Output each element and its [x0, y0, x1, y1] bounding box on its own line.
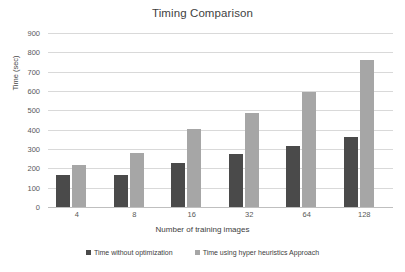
- bar: [360, 60, 374, 207]
- bar: [114, 175, 128, 207]
- chart-legend: Time without optimizationTime using hype…: [0, 249, 405, 256]
- y-axis-tick-label: 900: [27, 29, 40, 38]
- bar-group: [106, 33, 164, 207]
- x-axis-tick-label: 8: [132, 210, 136, 219]
- x-axis-tick-label: 64: [303, 210, 311, 219]
- x-axis-tick-labels: 48163264128: [48, 210, 393, 224]
- bar-group: [48, 33, 106, 207]
- bar-group: [163, 33, 221, 207]
- y-axis-tick-label: 200: [27, 164, 40, 173]
- bar: [72, 165, 86, 207]
- y-axis-tick-label: 500: [27, 106, 40, 115]
- plot-area: [48, 33, 393, 207]
- y-axis-tick-label: 300: [27, 145, 40, 154]
- legend-entry[interactable]: Time using hyper heuristics Approach: [195, 249, 319, 256]
- x-axis-tick-label: 32: [245, 210, 253, 219]
- bar: [229, 154, 243, 207]
- x-axis-tick-label: 128: [358, 210, 371, 219]
- chart-title: Timing Comparison: [0, 7, 405, 19]
- bar-group: [278, 33, 336, 207]
- y-axis-tick-label: 700: [27, 67, 40, 76]
- bar: [302, 92, 316, 207]
- legend-entry[interactable]: Time without optimization: [86, 249, 173, 256]
- x-axis-tick-label: 4: [75, 210, 79, 219]
- bar: [245, 113, 259, 207]
- gridline: [48, 207, 393, 208]
- y-axis-tick-label: 400: [27, 125, 40, 134]
- bars-layer: [48, 33, 393, 207]
- y-axis-tick-labels: 0100200300400500600700800900: [0, 33, 44, 207]
- bar: [187, 129, 201, 207]
- y-axis-tick-label: 600: [27, 87, 40, 96]
- bar: [286, 146, 300, 207]
- legend-label: Time using hyper heuristics Approach: [203, 249, 319, 256]
- bar-group: [221, 33, 279, 207]
- bar: [56, 175, 70, 207]
- y-axis-tick-label: 0: [36, 203, 40, 212]
- bar: [171, 163, 185, 207]
- legend-swatch-icon: [195, 250, 200, 255]
- bar-group: [336, 33, 394, 207]
- y-axis-tick-label: 800: [27, 48, 40, 57]
- bar: [130, 153, 144, 207]
- x-axis-tick-label: 16: [188, 210, 196, 219]
- x-axis-title: Number of training images: [0, 225, 405, 234]
- legend-label: Time without optimization: [94, 249, 173, 256]
- legend-swatch-icon: [86, 250, 91, 255]
- bar: [344, 137, 358, 207]
- bar-chart: Timing Comparison Time (sec) 01002003004…: [0, 0, 405, 272]
- y-axis-tick-label: 100: [27, 183, 40, 192]
